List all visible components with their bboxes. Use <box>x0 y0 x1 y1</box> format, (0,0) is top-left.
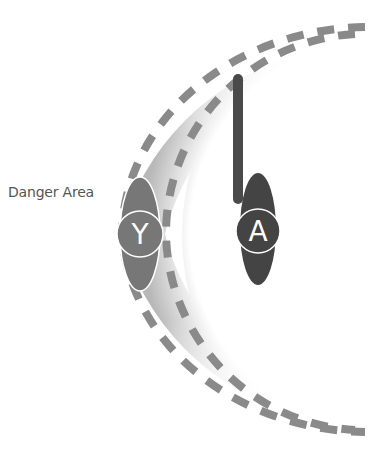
danger-area-label: Danger Area <box>8 184 94 200</box>
node-y-letter: Y <box>130 218 149 251</box>
vertical-bar <box>233 74 243 204</box>
node-a-letter: A <box>248 215 267 248</box>
danger-area-diagram: Y A <box>0 0 386 469</box>
